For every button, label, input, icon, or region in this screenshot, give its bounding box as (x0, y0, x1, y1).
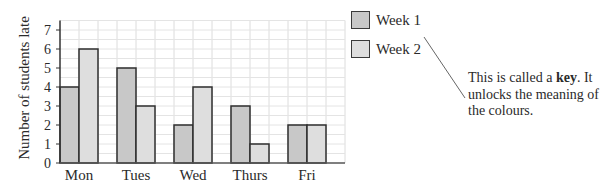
legend-item-week-2: Week 2 (351, 40, 421, 58)
legend-swatch-week-2 (351, 40, 370, 58)
svg-text:4: 4 (44, 80, 51, 95)
key-pointer-line (424, 37, 465, 98)
bar-thurs-week-1 (231, 106, 250, 163)
svg-text:Tues: Tues (122, 167, 151, 183)
legend-label: Week 2 (376, 41, 421, 58)
bar-thurs-week-2 (250, 144, 269, 163)
svg-text:Mon: Mon (65, 167, 94, 183)
bar-tues-week-1 (117, 68, 136, 163)
bar-mon-week-2 (79, 49, 98, 163)
bar-fri-week-2 (307, 125, 326, 163)
bar-tues-week-2 (136, 106, 155, 163)
svg-text:1: 1 (44, 137, 51, 152)
legend-item-week-1: Week 1 (351, 11, 421, 29)
svg-text:2: 2 (44, 118, 51, 133)
y-tick-labels: 01234567 (44, 23, 60, 171)
svg-text:0: 0 (44, 156, 51, 171)
annotation-text-before: This is called a (468, 70, 556, 85)
annotation-bold-word: key (556, 70, 577, 85)
svg-text:6: 6 (44, 42, 51, 57)
svg-text:Fri: Fri (298, 167, 316, 183)
y-axis-label: Number of students late (16, 16, 32, 160)
svg-text:7: 7 (44, 23, 51, 38)
svg-text:Thurs: Thurs (233, 167, 268, 183)
svg-text:5: 5 (44, 61, 51, 76)
legend-swatch-week-1 (351, 11, 370, 29)
svg-text:Wed: Wed (179, 167, 207, 183)
bar-wed-week-1 (174, 125, 193, 163)
svg-text:3: 3 (44, 99, 51, 114)
bar-fri-week-1 (288, 125, 307, 163)
legend-label: Week 1 (376, 12, 421, 29)
bar-wed-week-2 (193, 87, 212, 163)
key-annotation: This is called a key. It unlocks the mea… (468, 70, 603, 120)
bar-mon-week-1 (60, 87, 79, 163)
x-tick-labels: MonTuesWedThursFri (65, 167, 316, 183)
